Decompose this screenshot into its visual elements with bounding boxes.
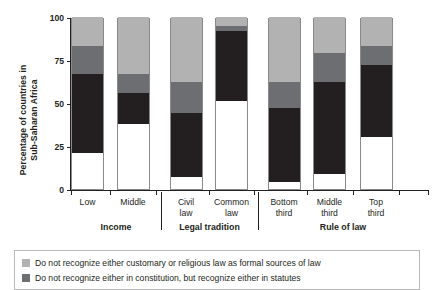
x-axis-tick-mark bbox=[254, 190, 255, 195]
bar-common-law[interactable] bbox=[215, 18, 248, 190]
y-axis-tick: 0 bbox=[59, 185, 71, 195]
bar-segment bbox=[314, 53, 345, 82]
y-axis-tick: 25 bbox=[54, 142, 71, 152]
bar-segment bbox=[171, 82, 202, 113]
x-axis-label-top-third: Topthird bbox=[348, 197, 404, 219]
bar-segment bbox=[269, 182, 300, 189]
bar-low[interactable] bbox=[71, 18, 104, 190]
bar-segment bbox=[171, 113, 202, 177]
bar-segment bbox=[269, 17, 300, 82]
bar-middle[interactable] bbox=[117, 18, 150, 190]
group-title-rule-of-law: Rule of law bbox=[258, 222, 428, 232]
bar-segment bbox=[269, 82, 300, 108]
y-axis-tick-label: 100 bbox=[50, 13, 64, 23]
bar-civil-law[interactable] bbox=[170, 18, 203, 190]
bar-segment bbox=[72, 153, 103, 189]
bar-segment bbox=[216, 26, 247, 31]
group-title-income: Income bbox=[71, 222, 161, 232]
y-axis-tick-label: 50 bbox=[54, 99, 64, 109]
x-axis-tick-mark bbox=[156, 190, 157, 195]
x-axis-tick-mark bbox=[428, 190, 429, 195]
bar-segment bbox=[118, 93, 149, 124]
bar-segment bbox=[314, 17, 345, 53]
bar-top-third[interactable] bbox=[360, 18, 393, 190]
y-axis-tick-label: 75 bbox=[54, 56, 64, 66]
y-axis-tick-label: 25 bbox=[54, 142, 64, 152]
x-axis-label-line: law bbox=[204, 208, 260, 219]
bar-segment bbox=[171, 17, 202, 82]
y-axis-title: Percentage of countries in Sub-Saharan A… bbox=[13, 25, 45, 215]
x-axis-label-common-law: Commonlaw bbox=[204, 197, 260, 219]
y-axis-title-line-1: Percentage of countries in bbox=[18, 65, 30, 176]
bar-segment bbox=[269, 108, 300, 182]
x-axis-tick-mark bbox=[110, 190, 111, 195]
bar-segment bbox=[72, 46, 103, 74]
x-axis-label-middle: Middle bbox=[105, 197, 161, 208]
legend-item[interactable]: Do not recognize either customary or rel… bbox=[22, 256, 419, 270]
x-axis-label-line: third bbox=[348, 208, 404, 219]
bar-segment bbox=[361, 17, 392, 46]
group-title-legal-tradition: Legal tradition bbox=[161, 222, 258, 232]
y-axis-tick: 75 bbox=[54, 56, 71, 66]
x-axis-label-line: Middle bbox=[105, 197, 161, 208]
y-axis-tick-label: 0 bbox=[59, 185, 64, 195]
bar-segment bbox=[72, 74, 103, 153]
bar-segment bbox=[216, 17, 247, 26]
legend-item[interactable]: Do not recognize either in constitution,… bbox=[22, 271, 419, 285]
x-axis-label-line: Common bbox=[204, 197, 260, 208]
chart-legend: Do not recognize either customary or rel… bbox=[14, 250, 420, 290]
bar-bottom-third[interactable] bbox=[268, 18, 301, 190]
x-axis-tick-mark bbox=[209, 190, 210, 195]
bar-segment bbox=[118, 124, 149, 189]
bar-segment bbox=[314, 174, 345, 189]
bar-segment bbox=[118, 74, 149, 93]
legend-label: Do not recognize either in constitution,… bbox=[35, 273, 301, 283]
x-axis-tick-mark bbox=[353, 190, 354, 195]
y-axis-tick: 50 bbox=[54, 99, 71, 109]
x-axis-tick-mark bbox=[307, 190, 308, 195]
bar-segment bbox=[361, 137, 392, 189]
bar-segment bbox=[216, 101, 247, 189]
x-axis-label-line: Top bbox=[348, 197, 404, 208]
y-axis-tick: 100 bbox=[50, 13, 71, 23]
bar-middle-third[interactable] bbox=[313, 18, 346, 190]
bar-segment bbox=[72, 17, 103, 46]
x-axis-tick-mark bbox=[399, 190, 400, 195]
bar-segment bbox=[314, 82, 345, 173]
bar-segment bbox=[361, 46, 392, 65]
legend-swatch bbox=[22, 274, 30, 282]
plot-area: 0255075100 bbox=[71, 18, 428, 190]
x-axis-tick-mark bbox=[71, 190, 72, 195]
y-axis-title-line-2: Sub-Saharan Africa bbox=[29, 79, 41, 160]
legend-swatch bbox=[22, 259, 30, 267]
legend-rows: Do not recognize either customary or rel… bbox=[22, 256, 419, 285]
bar-segment bbox=[171, 177, 202, 189]
legend-label: Do not recognize either customary or rel… bbox=[35, 258, 321, 268]
bar-segment bbox=[216, 31, 247, 102]
x-axis-line bbox=[70, 190, 428, 191]
bar-segment bbox=[361, 65, 392, 137]
bar-segment bbox=[118, 17, 149, 74]
